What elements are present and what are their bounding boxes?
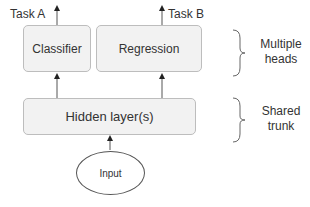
- regression-head-box: Regression: [96, 25, 202, 72]
- regression-label: Regression: [119, 42, 180, 56]
- hidden-layers-label: Hidden layer(s): [65, 109, 153, 124]
- hidden-layers-box: Hidden layer(s): [23, 98, 196, 135]
- classifier-head-box: Classifier: [23, 25, 91, 72]
- task-b-label: Task B: [168, 7, 204, 21]
- task-a-label: Task A: [10, 7, 45, 21]
- shared-trunk-annotation: Shared trunk: [252, 104, 310, 134]
- multiple-heads-annotation: Multiple heads: [252, 37, 310, 67]
- input-node: Input: [76, 151, 145, 195]
- classifier-label: Classifier: [32, 42, 81, 56]
- input-label: Input: [99, 168, 121, 179]
